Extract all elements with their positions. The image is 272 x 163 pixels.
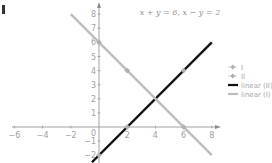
legend-label: linear (II): [241, 82, 272, 90]
y-tick-label: 4: [91, 67, 96, 76]
y-tick-label: 8: [91, 10, 96, 19]
y-tick-label: 5: [91, 53, 96, 62]
legend-label: linear (I): [241, 91, 271, 99]
legend: IIIlinear (II)linear (I): [228, 64, 272, 99]
chart-title: x + y = 6, x − y = 2: [140, 8, 220, 17]
x-tick-label: 8: [209, 131, 214, 140]
x-tick-label: −6: [9, 131, 21, 140]
x-tick-label: 4: [153, 131, 158, 140]
origin-label: 0: [91, 129, 96, 138]
y-tick-label: 1: [91, 109, 96, 118]
legend-marker-icon: [230, 73, 235, 78]
y-tick-label: 3: [91, 81, 96, 90]
x-tick-label: 2: [125, 131, 130, 140]
x-axis-arrow-icon: [215, 125, 221, 129]
x-tick-label: 6: [181, 131, 186, 140]
series-markers: [96, 40, 186, 158]
x-tick-label: −2: [65, 131, 77, 140]
y-tick-label: 7: [91, 24, 96, 33]
y-tick-label: 2: [91, 95, 96, 104]
y-axis-arrow-icon: [97, 2, 101, 8]
y-tick-label: −1: [84, 137, 96, 146]
legend-marker-icon: [230, 64, 235, 69]
legend-label: II: [241, 73, 245, 81]
legend-label: I: [241, 64, 243, 72]
series-line: [92, 42, 212, 162]
x-tick-label: −4: [37, 131, 49, 140]
chart-canvas: −6−4−22468−2−1123456780 x + y = 6, x − y…: [0, 0, 272, 163]
